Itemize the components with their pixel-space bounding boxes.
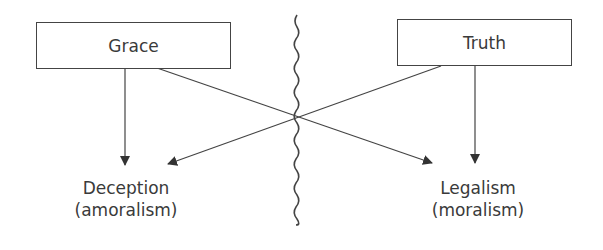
legalism-outcome: Legalism (moralism) (418, 177, 538, 221)
grace-to-legalism-arrow (157, 68, 432, 163)
grace-label: Grace (108, 36, 158, 56)
wavy-divider-line (294, 15, 299, 225)
amoralism-label: (amoralism) (66, 199, 186, 221)
grace-box: Grace (36, 22, 231, 69)
deception-outcome: Deception (amoralism) (66, 177, 186, 221)
deception-label: Deception (66, 177, 186, 199)
truth-to-deception-arrow (168, 66, 441, 164)
truth-label: Truth (463, 33, 506, 53)
legalism-label: Legalism (418, 177, 538, 199)
moralism-label: (moralism) (418, 199, 538, 221)
truth-box: Truth (397, 19, 572, 66)
